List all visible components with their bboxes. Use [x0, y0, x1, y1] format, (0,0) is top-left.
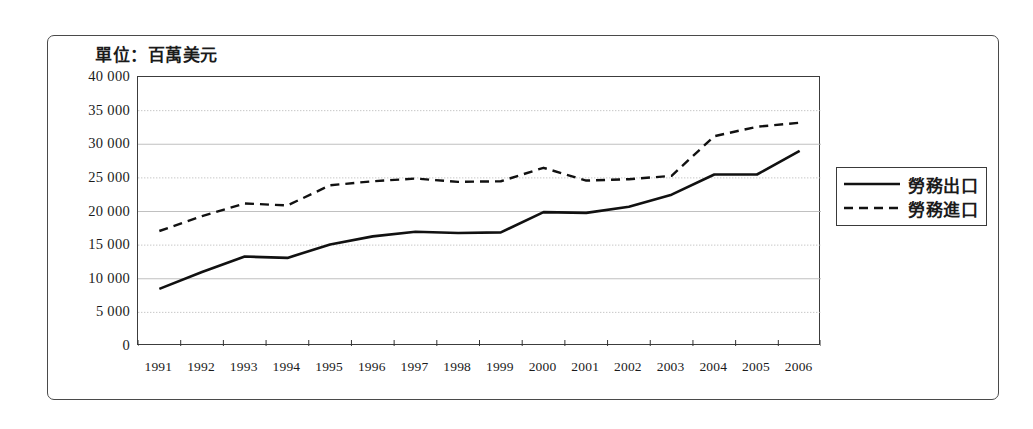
legend-label: 勞務出口	[908, 172, 978, 197]
y-tick-label: 5 000	[46, 304, 130, 318]
x-tick-label: 2002	[607, 359, 650, 381]
series-line-2	[159, 123, 799, 231]
x-tick-label: 2006	[777, 359, 820, 381]
x-tick-label: 1998	[436, 359, 479, 381]
plot-area	[137, 76, 820, 345]
legend-dashed-line-icon	[843, 202, 901, 214]
x-tick-label: 1996	[350, 359, 393, 381]
x-axis-ticks	[138, 340, 821, 346]
y-tick-label: 30 000	[46, 136, 130, 150]
x-tick-label: 1995	[308, 359, 351, 381]
x-tick-label: 1993	[222, 359, 265, 381]
x-tick-label: 1992	[180, 359, 223, 381]
x-tick-label: 2003	[649, 359, 692, 381]
line-chart-svg	[138, 77, 821, 346]
gridlines	[138, 111, 821, 313]
series-line-1	[159, 151, 799, 289]
x-tick-label: 1994	[265, 359, 308, 381]
x-tick-label: 2001	[564, 359, 607, 381]
x-tick-label: 1997	[393, 359, 436, 381]
y-axis: 40 00035 00030 00025 00020 00015 00010 0…	[46, 0, 130, 429]
y-tick-label: 0	[46, 338, 130, 352]
y-tick-label: 20 000	[46, 204, 130, 218]
legend-label: 勞務進口	[908, 196, 978, 221]
x-tick-label: 2000	[521, 359, 564, 381]
legend: 勞務出口勞務進口	[836, 167, 987, 226]
y-tick-label: 25 000	[46, 170, 130, 184]
x-tick-label: 1991	[137, 359, 180, 381]
series-paths	[159, 123, 799, 289]
legend-item: 勞務進口	[843, 196, 978, 220]
legend-item: 勞務出口	[843, 172, 978, 196]
legend-solid-line-icon	[843, 178, 901, 190]
x-tick-label: 2005	[735, 359, 778, 381]
x-tick-label: 2004	[692, 359, 735, 381]
y-tick-label: 10 000	[46, 271, 130, 285]
x-tick-label: 1999	[479, 359, 522, 381]
y-tick-label: 35 000	[46, 103, 130, 117]
y-tick-label: 40 000	[46, 69, 130, 83]
y-tick-label: 15 000	[46, 237, 130, 251]
x-axis: 1991199219931994199519961997199819992000…	[137, 359, 820, 381]
